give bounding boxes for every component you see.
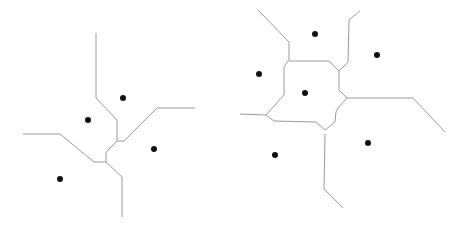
voronoi-edge (324, 134, 343, 208)
site-point (151, 146, 157, 152)
voronoi-edge (347, 98, 445, 132)
voronoi-edge (106, 162, 122, 217)
site-point (256, 71, 262, 77)
voronoi-left (23, 33, 195, 217)
site-point (374, 52, 380, 58)
voronoi-edge (240, 114, 266, 115)
voronoi-edge (23, 134, 117, 162)
site-point (57, 176, 63, 182)
site-point (302, 90, 308, 96)
site-point (85, 117, 91, 123)
voronoi-right (240, 10, 445, 208)
diagram-canvas (0, 0, 470, 226)
voronoi-edge (96, 33, 195, 141)
site-point (272, 152, 278, 158)
voronoi-edge (258, 10, 347, 130)
site-point (365, 140, 371, 146)
site-point (120, 95, 126, 101)
site-point (312, 31, 318, 37)
voronoi-edge (266, 61, 325, 130)
voronoi-edge (339, 11, 360, 71)
voronoi-diagrams (0, 0, 470, 226)
